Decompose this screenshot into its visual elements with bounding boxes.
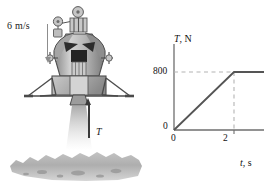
x-axis-title: t, s — [240, 157, 252, 168]
thrust-curve — [174, 72, 264, 130]
ladder — [72, 62, 86, 76]
thrust-label: T — [96, 126, 102, 137]
y-tick-label-0: 0 — [163, 121, 168, 131]
upper-vent-cluster — [70, 18, 87, 32]
y-axis-title: T, N — [174, 33, 192, 44]
physics-figure: 6 m/s T T, N t, s 800 0 0 — [0, 0, 264, 195]
antenna-box-left — [54, 29, 63, 37]
lander-scene: 6 m/s T — [0, 0, 148, 195]
antenna-dish-left-hub — [57, 20, 60, 23]
velocity-arrow-down — [47, 24, 48, 58]
y-tick-label-800: 800 — [153, 66, 167, 76]
antenna-dish-top-hub — [76, 10, 79, 13]
lunar-terrain — [10, 152, 142, 181]
hatch — [71, 50, 87, 62]
x-tick-label-0: 0 — [171, 133, 176, 143]
x-tick-label-2: 2 — [223, 133, 228, 143]
velocity-label: 6 m/s — [7, 20, 30, 31]
thrust-arrow-up — [88, 104, 90, 138]
descent-stage-center-panel — [70, 76, 88, 95]
thrust-time-chart: T, N t, s 800 0 0 2 — [148, 0, 264, 195]
